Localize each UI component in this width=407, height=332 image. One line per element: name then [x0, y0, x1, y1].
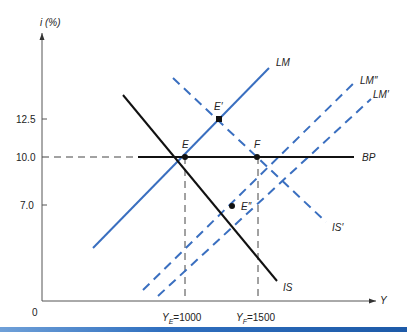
point-e-double-prime — [229, 203, 235, 209]
point-f — [254, 154, 260, 160]
is-label: IS — [283, 282, 293, 293]
bottom-bar — [0, 327, 407, 332]
point-e — [182, 154, 188, 160]
point-f-label: F — [254, 139, 261, 150]
x-tick-yf: YF=1500 — [236, 312, 275, 325]
point-e-prime — [216, 116, 222, 122]
point-e-double-prime-label: E″ — [241, 201, 252, 212]
point-e-label: E — [182, 139, 189, 150]
x-tick-ye: YE=1000 — [162, 312, 202, 325]
lm-double-prime-curve — [143, 80, 357, 290]
point-e-prime-label: E′ — [214, 101, 224, 112]
lm-prime-label: LM′ — [373, 89, 390, 100]
tick-label-12-5: 12.5 — [16, 114, 36, 125]
origin-label: 0 — [32, 307, 38, 318]
lm-double-prime-label: LM″ — [360, 75, 378, 86]
is-curve — [123, 95, 277, 281]
y-axis-label: i (%) — [40, 17, 61, 28]
is-prime-label: IS′ — [332, 222, 344, 233]
x-axis-label: Y — [380, 295, 388, 306]
bp-label: BP — [362, 152, 376, 163]
islm-bp-diagram: i (%) Y 0 12.5 10.0 7.0 LM LM″ LM′ IS IS… — [0, 0, 407, 332]
tick-label-7-0: 7.0 — [20, 200, 34, 211]
tick-label-10-0: 10.0 — [16, 152, 36, 163]
lm-label: LM — [276, 57, 291, 68]
